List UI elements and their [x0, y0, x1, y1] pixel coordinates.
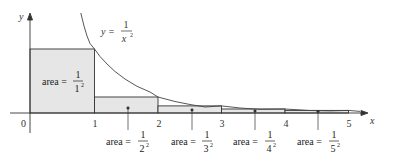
svg-text:1: 1: [75, 83, 80, 94]
area-label-2: area = 1 2 2: [106, 129, 149, 154]
svg-text:2: 2: [210, 142, 213, 148]
svg-text:1: 1: [124, 19, 129, 30]
x-axis-label: x: [369, 115, 375, 126]
origin-label: 0: [21, 118, 26, 129]
svg-text:1: 1: [141, 129, 146, 140]
svg-text:area =: area =: [106, 136, 131, 147]
svg-text:y =: y =: [100, 26, 115, 37]
area-label-5: area = 1 5 2: [297, 129, 340, 154]
area-label-4: area = 1 4 2: [233, 129, 276, 154]
y-axis-label: y: [18, 11, 24, 22]
tick-5: 5: [347, 118, 352, 129]
svg-text:1: 1: [332, 129, 337, 140]
svg-text:2: 2: [337, 142, 340, 148]
svg-text:area =: area =: [42, 76, 67, 87]
x-ticks: 1 2 3 4 5: [93, 118, 352, 129]
svg-text:area =: area =: [233, 136, 258, 147]
svg-text:2: 2: [81, 82, 84, 88]
function-label: y = 1 x 2: [100, 19, 133, 44]
rect-2: [95, 97, 159, 113]
tick-3: 3: [220, 118, 225, 129]
tick-4: 4: [284, 118, 289, 129]
svg-text:2: 2: [140, 143, 145, 154]
svg-text:2: 2: [273, 142, 276, 148]
riemann-sum-diagram: y x 0 1 2 3 4 5 y = 1 x 2 area = 1 1 2 a…: [0, 0, 401, 164]
svg-text:5: 5: [331, 143, 336, 154]
svg-text:1: 1: [268, 129, 273, 140]
svg-text:x: x: [121, 33, 127, 44]
svg-text:1: 1: [76, 69, 81, 80]
rect-4: [222, 109, 286, 113]
svg-text:1: 1: [205, 129, 210, 140]
svg-text:3: 3: [204, 143, 209, 154]
x-axis-arrow-icon: [361, 111, 368, 116]
tick-2: 2: [157, 118, 162, 129]
svg-text:area =: area =: [297, 136, 322, 147]
svg-text:2: 2: [146, 142, 149, 148]
area-label-3: area = 1 3 2: [171, 129, 213, 154]
svg-text:area =: area =: [171, 136, 196, 147]
y-axis-arrow-icon: [28, 13, 33, 20]
tick-1: 1: [93, 118, 98, 129]
svg-text:2: 2: [130, 32, 133, 38]
svg-text:4: 4: [267, 143, 272, 154]
